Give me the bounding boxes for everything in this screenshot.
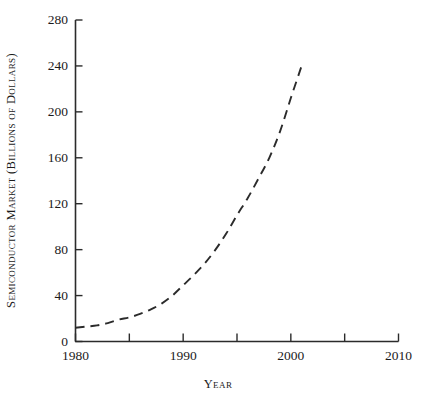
y-axis-tick-label: 80 <box>28 243 68 257</box>
x-axis-tick-label: 1980 <box>41 349 111 363</box>
x-axis-tick-label: 1990 <box>148 349 218 363</box>
y-axis-ticks <box>76 20 83 342</box>
x-axis-ticks <box>76 334 399 342</box>
semiconductor-market-chart: 04080120160200240280 1980199020002010 Se… <box>0 0 436 411</box>
y-axis-tick-label: 240 <box>28 59 68 73</box>
y-axis-tick-label: 200 <box>28 105 68 119</box>
y-axis-tick-label: 280 <box>28 13 68 27</box>
x-axis-tick-label: 2000 <box>256 349 326 363</box>
x-axis-tick-labels: 1980199020002010 <box>0 349 436 369</box>
y-axis-tick-label: 0 <box>28 335 68 349</box>
y-axis-tick-label: 120 <box>28 197 68 211</box>
x-axis-title: Year <box>0 377 436 392</box>
y-axis-title: Semiconductor Market (Billions of Dollar… <box>4 53 19 308</box>
y-axis-tick-label: 160 <box>28 151 68 165</box>
data-series-line <box>76 66 302 328</box>
x-axis-tick-label: 2010 <box>364 349 434 363</box>
y-axis-tick-label: 40 <box>28 289 68 303</box>
y-axis-title-wrap: Semiconductor Market (Billions of Dollar… <box>0 0 22 360</box>
